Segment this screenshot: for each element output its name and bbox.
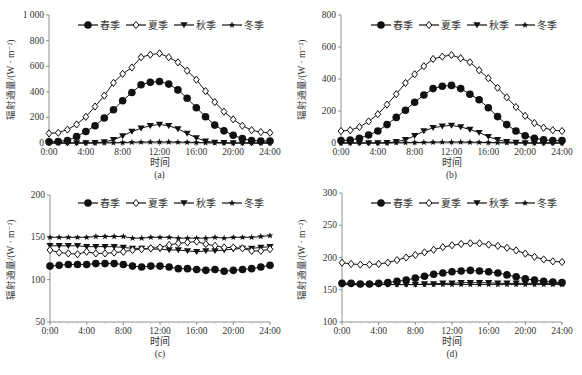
legend-item: 夏季 [126,198,168,209]
marker-circle [430,270,438,278]
marker-circle [411,98,419,106]
marker-circle [512,273,520,281]
marker-star [65,234,72,240]
marker-circle [558,137,566,145]
marker-diamond [559,258,565,265]
marker-circle [202,113,210,121]
legend-item: 秋季 [174,197,216,209]
marker-diamond [47,246,53,253]
marker-diamond [522,250,528,257]
marker-triangle [128,129,135,135]
legend-item: 春季 [371,198,413,209]
marker-diamond [449,242,455,249]
marker-triangle [174,126,181,132]
series-line [341,55,562,131]
marker-circle [54,138,62,146]
marker-triangle [411,133,418,139]
marker-circle [165,80,173,88]
marker-circle [65,261,73,269]
x-tick-label: 16:00 [478,147,500,157]
marker-diamond [93,250,99,257]
marker-circle [266,261,274,269]
marker-triangle [466,127,473,133]
marker-diamond [541,124,547,131]
marker-diamond [148,245,154,252]
legend-label: 秋季 [489,19,509,31]
marker-diamond [339,259,345,266]
x-tick-label: 8:00 [407,326,424,336]
marker-diamond [440,244,446,251]
marker-circle [248,265,256,273]
legend-label: 春季 [393,20,413,31]
marker-circle [74,261,82,269]
chart-panel-c: 501001502000:004:008:0012:0016:0020:0024… [0,185,291,365]
marker-diamond [147,51,153,58]
legend-label: 夏季 [148,20,168,31]
marker-circle [202,267,210,275]
marker-circle [55,261,63,269]
marker-triangle [193,135,200,141]
legend-label: 冬季 [244,197,264,209]
marker-circle [439,269,447,277]
marker-circle [521,132,529,140]
legend-item: 夏季 [419,20,461,31]
marker-circle [248,137,256,145]
marker-diamond [56,249,62,256]
marker-diamond [120,248,126,255]
marker-star [267,232,274,238]
marker-circle [384,279,392,287]
legend-item: 秋季 [467,197,509,209]
legend-label: 夏季 [148,198,168,209]
panel-label: (b) [446,170,457,181]
marker-circle [393,278,401,286]
marker-circle [146,78,154,86]
y-tick-label: 100 [31,275,46,285]
marker-diamond [403,254,409,261]
marker-circle [421,272,429,280]
legend-label: 秋季 [489,197,509,209]
marker-triangle [476,130,483,136]
marker-circle [239,135,247,143]
y-tick-label: 200 [322,106,337,116]
series-line [341,85,562,140]
marker-circle [448,268,456,276]
marker-triangle [119,133,126,139]
marker-diamond [230,116,236,123]
marker-circle [438,82,446,90]
marker-diamond [267,129,273,136]
marker-circle [83,261,91,269]
marker-circle [540,136,548,144]
x-tick-label: 24:00 [551,326,573,336]
marker-circle [429,85,437,93]
legend: 春季夏季秋季冬季 [371,19,557,31]
x-tick-label: 4:00 [369,147,386,157]
legend-label: 春季 [100,198,120,209]
marker-circle [402,276,410,284]
legend-label: 夏季 [441,198,461,209]
y-tick-label: 200 [323,253,338,263]
x-tick-label: 8:00 [115,326,132,336]
y-axis-label: 辐射通量/(W · m⁻²) [296,220,308,301]
y-tick-label: 150 [31,232,46,242]
marker-diamond [430,55,436,62]
marker-circle [558,279,566,287]
x-tick-label: 4:00 [370,326,387,336]
y-tick-label: 1 000 [23,10,45,20]
x-tick-label: 0:00 [42,326,59,336]
marker-circle [457,85,465,93]
marker-star [229,200,236,206]
marker-circle [420,91,428,99]
marker-diamond [348,260,354,267]
x-tick-label: 8:00 [114,147,131,157]
marker-circle [129,262,137,270]
marker-diamond [102,250,108,257]
marker-diamond [449,51,455,58]
chart-d-svg: 1001502002503000:004:008:0012:0016:0020:… [291,185,582,365]
panel-label: (d) [446,349,457,360]
legend-label: 春季 [393,198,413,209]
x-tick-label: 0:00 [41,147,58,157]
marker-star [120,233,127,239]
marker-diamond [65,250,71,257]
legend-item: 春季 [78,20,120,31]
marker-circle [377,199,385,207]
